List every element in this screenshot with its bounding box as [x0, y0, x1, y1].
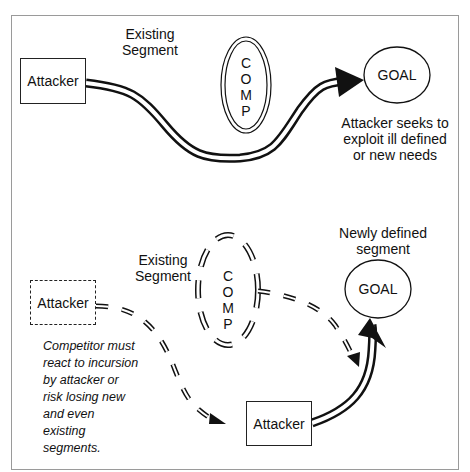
competitor-note: Competitor must react to incursion by at… [43, 338, 138, 457]
attack-path-inner [86, 81, 345, 158]
existing-segment-label-top: Existing Segment [120, 26, 180, 58]
attacker-label-bottom: Attacker [253, 416, 304, 432]
goal-label-top: GOAL [364, 47, 430, 103]
existing-segment-label-bottom: Existing Segment [133, 252, 193, 284]
attacker-box-top: Attacker [20, 58, 86, 104]
arrowhead-dashed-1 [209, 413, 226, 424]
comp-label-top: C O M P [238, 55, 254, 119]
attacker-label-top: Attacker [27, 73, 78, 89]
attacker-box-dashed: Attacker [30, 280, 96, 325]
arrowhead-top [335, 67, 364, 97]
newly-defined-segment-label: Newly defined segment [328, 225, 438, 257]
attacker-label-dashed: Attacker [37, 295, 88, 311]
attacker-caption: Attacker seeks to exploit ill defined or… [325, 115, 465, 163]
arrowhead-dashed-2 [347, 352, 360, 367]
goal-label-bottom: GOAL [345, 260, 411, 318]
comp-label-bottom: C O M P [220, 268, 236, 332]
attacker-box-bottom: Attacker [246, 401, 312, 446]
dashed-path-2-inner [258, 291, 354, 360]
dashed-path-2-outer [258, 291, 354, 360]
